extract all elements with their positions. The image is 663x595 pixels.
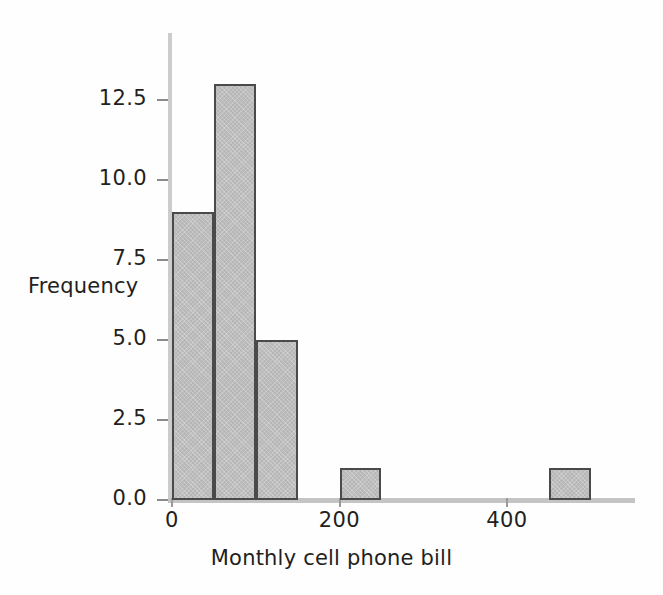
histogram-figure: 0.02.55.07.510.012.5 0200400 Frequency M… [0,0,663,595]
histogram-bar [256,340,298,500]
histogram-bar [340,468,382,500]
histogram-bar [172,212,214,500]
y-axis-title: Frequency [28,274,138,298]
histogram-bar [549,468,591,500]
histogram-bar [214,84,256,500]
x-axis-title: Monthly cell phone bill [0,546,663,570]
